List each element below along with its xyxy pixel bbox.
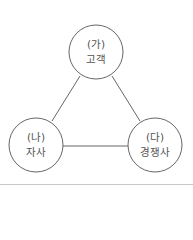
node-da-label: 경쟁사 — [128, 145, 182, 160]
node-ga-label: 고객 — [69, 52, 123, 67]
node-da-marker: (다) — [128, 130, 182, 145]
edge-ga-da — [112, 76, 140, 121]
edge-ga-na — [52, 76, 80, 121]
node-na: (나) 자사 — [9, 130, 63, 160]
bottom-divider — [0, 184, 193, 185]
node-na-label: 자사 — [9, 145, 63, 160]
node-ga-marker: (가) — [69, 37, 123, 52]
node-da: (다) 경쟁사 — [128, 130, 182, 160]
node-na-marker: (나) — [9, 130, 63, 145]
node-ga: (가) 고객 — [69, 37, 123, 67]
